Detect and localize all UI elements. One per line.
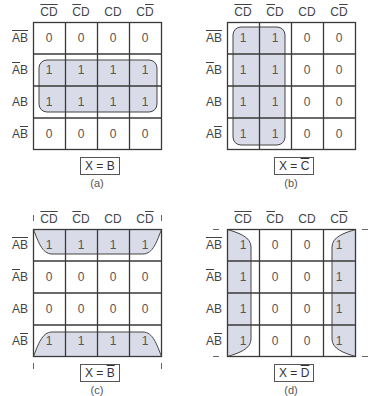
- col-d: D: [113, 212, 122, 226]
- kmap-cell: 0: [129, 293, 161, 325]
- kmap-cell: 0: [129, 118, 161, 150]
- row-b: B: [20, 302, 28, 316]
- column-header: CD: [129, 5, 161, 19]
- kmap-cell: 1: [97, 229, 129, 261]
- kmap-cell: 1: [33, 54, 65, 86]
- column-header: CD: [227, 212, 259, 226]
- column-header: CD: [129, 212, 161, 226]
- col-d: D: [307, 5, 316, 19]
- row-a: A: [206, 334, 214, 348]
- col-d: D: [307, 212, 316, 226]
- kmap-cell: 1: [65, 54, 97, 86]
- kmap-cell: 1: [97, 54, 129, 86]
- column-header: CD: [291, 5, 323, 19]
- kmap-cell: 0: [259, 293, 291, 325]
- expression-box: X = C: [274, 157, 314, 175]
- col-c-bar: C: [234, 5, 243, 19]
- kmap-cell: 0: [97, 293, 129, 325]
- column-header: CD: [97, 212, 129, 226]
- row-header: AB: [2, 270, 28, 284]
- row-b-bar: B: [20, 334, 28, 348]
- kmap-cell: 0: [291, 229, 323, 261]
- row-header: AB: [2, 31, 28, 45]
- kmap-cell: 1: [227, 22, 259, 54]
- kmap-cell: 0: [291, 86, 323, 118]
- kmap-cell: 0: [259, 261, 291, 293]
- expression-variable: B: [107, 159, 115, 173]
- expression-variable: C: [301, 159, 310, 173]
- col-c-bar: C: [234, 212, 243, 226]
- col-c: C: [104, 5, 113, 19]
- col-c-bar: C: [266, 5, 275, 19]
- figure-caption: (d): [276, 384, 306, 396]
- kmap-cell: 0: [97, 118, 129, 150]
- col-d: D: [81, 212, 90, 226]
- row-a-bar: A: [206, 63, 214, 77]
- column-header: CD: [323, 5, 355, 19]
- kmap-cell: 1: [227, 118, 259, 150]
- figure-caption: (c): [82, 384, 112, 396]
- kmap-cell: 0: [323, 54, 355, 86]
- kmap-cell: 0: [65, 118, 97, 150]
- col-d-bar: D: [145, 5, 154, 19]
- kmap-cell: 0: [291, 261, 323, 293]
- col-c: C: [136, 5, 145, 19]
- kmap-cell: 1: [323, 325, 355, 357]
- row-a-bar: A: [206, 31, 214, 45]
- kmap-cell: 0: [65, 261, 97, 293]
- col-c: C: [330, 212, 339, 226]
- kmap-cell: 1: [227, 325, 259, 357]
- row-b: B: [20, 270, 28, 284]
- kmap-cell: 0: [291, 118, 323, 150]
- kmap-cell: 1: [129, 229, 161, 261]
- col-d-bar: D: [339, 5, 348, 19]
- column-header: CD: [323, 212, 355, 226]
- row-b-bar: B: [214, 127, 222, 141]
- expression-box: X = B: [80, 364, 120, 382]
- column-header: CD: [33, 212, 65, 226]
- kmap-cell: 0: [33, 293, 65, 325]
- column-header: CD: [259, 5, 291, 19]
- row-b-bar: B: [214, 31, 222, 45]
- row-b: B: [214, 302, 222, 316]
- kmap-cell: 1: [65, 229, 97, 261]
- col-c: C: [136, 212, 145, 226]
- col-c-bar: C: [266, 212, 275, 226]
- col-d: D: [275, 212, 284, 226]
- row-header: AB: [196, 270, 222, 284]
- kmap-cell: 1: [323, 229, 355, 261]
- column-header: CD: [227, 5, 259, 19]
- column-header: CD: [65, 5, 97, 19]
- kmap-cell: 1: [33, 325, 65, 357]
- kmap-cell: 1: [97, 325, 129, 357]
- row-a-bar: A: [12, 238, 20, 252]
- row-b: B: [214, 63, 222, 77]
- row-a: A: [206, 95, 214, 109]
- row-b: B: [214, 270, 222, 284]
- kmap-cell: 1: [33, 229, 65, 261]
- kmap-cell: 0: [259, 229, 291, 261]
- row-header: AB: [196, 238, 222, 252]
- col-c-bar: C: [72, 212, 81, 226]
- kmap-cell: 1: [129, 325, 161, 357]
- kmap-cell: 1: [259, 22, 291, 54]
- row-a: A: [206, 302, 214, 316]
- kmap-cell: 0: [65, 293, 97, 325]
- kmap-cell: 0: [129, 261, 161, 293]
- expression-variable: B: [107, 366, 115, 380]
- figure-caption: (a): [82, 177, 112, 189]
- expression-lhs: X =: [279, 159, 301, 173]
- row-header: AB: [196, 302, 222, 316]
- row-header: AB: [2, 127, 28, 141]
- kmap-cell: 1: [323, 293, 355, 325]
- column-header: CD: [97, 5, 129, 19]
- kmap-cell: 1: [65, 86, 97, 118]
- col-c: C: [330, 5, 339, 19]
- col-c-bar: C: [72, 5, 81, 19]
- kmap-cell: 1: [33, 86, 65, 118]
- kmap-cell: 0: [323, 22, 355, 54]
- col-d-bar: D: [243, 212, 252, 226]
- expression-lhs: X =: [279, 366, 301, 380]
- col-d-bar: D: [49, 212, 58, 226]
- kmap-cell: 0: [323, 118, 355, 150]
